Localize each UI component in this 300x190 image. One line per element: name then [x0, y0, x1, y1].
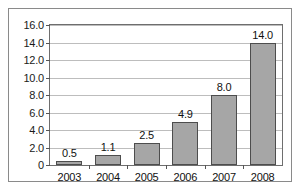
y-axis-tick-label: 0	[38, 159, 44, 171]
bar-slot: 2.52005	[127, 25, 166, 165]
bar-value-label: 14.0	[252, 29, 273, 41]
x-axis-tick-mark	[243, 165, 244, 169]
bar[interactable]	[250, 43, 276, 166]
x-axis-tick-mark	[205, 165, 206, 169]
y-axis-tick-label: 10.0	[23, 72, 44, 84]
bar[interactable]	[211, 95, 237, 165]
bar-slot: 14.02008	[243, 25, 282, 165]
bar[interactable]	[56, 161, 82, 165]
y-axis-tick-label: 2.0	[29, 142, 44, 154]
bar[interactable]	[95, 155, 121, 165]
x-axis-tick-label: 2007	[212, 171, 236, 183]
bar-slot: 0.52003	[50, 25, 89, 165]
bar-value-label: 8.0	[217, 81, 232, 93]
plot-area: 02.04.06.08.010.012.014.016.0 0.520031.1…	[50, 25, 282, 165]
bar-slot: 1.12004	[89, 25, 128, 165]
bar-value-label: 4.9	[178, 108, 193, 120]
bars-group: 0.520031.120042.520054.920068.0200714.02…	[50, 25, 282, 165]
x-axis-tick-mark	[166, 165, 167, 169]
y-axis-tick-mark	[46, 165, 50, 166]
x-axis-tick-mark	[127, 165, 128, 169]
y-axis-tick-label: 16.0	[23, 19, 44, 31]
y-axis-tick-label: 8.0	[29, 89, 44, 101]
y-axis-tick-label: 6.0	[29, 107, 44, 119]
bar[interactable]	[134, 143, 160, 165]
x-axis-tick-label: 2006	[173, 171, 197, 183]
y-axis-tick-label: 12.0	[23, 54, 44, 66]
bar-value-label: 1.1	[101, 141, 116, 153]
y-axis-tick-label: 14.0	[23, 37, 44, 49]
chart-figure: 02.04.06.08.010.012.014.016.0 0.520031.1…	[8, 8, 292, 182]
bar-slot: 8.02007	[205, 25, 244, 165]
x-axis-tick-mark	[89, 165, 90, 169]
y-axis-tick-label: 4.0	[29, 124, 44, 136]
x-axis-tick-label: 2004	[96, 171, 120, 183]
plot-frame: 02.04.06.08.010.012.014.016.0 0.520031.1…	[49, 24, 283, 166]
bar[interactable]	[172, 122, 198, 165]
x-axis-tick-label: 2003	[57, 171, 81, 183]
x-axis-tick-label: 2005	[135, 171, 159, 183]
bar-value-label: 0.5	[62, 147, 77, 159]
x-axis-tick-label: 2008	[251, 171, 275, 183]
bar-slot: 4.92006	[166, 25, 205, 165]
bar-value-label: 2.5	[139, 129, 154, 141]
